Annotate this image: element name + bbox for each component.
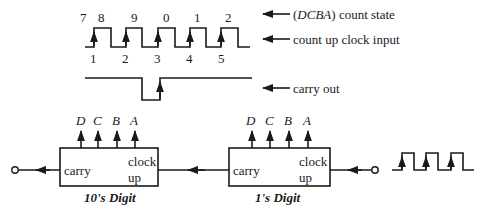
tens-digit-caption: 10's Digit (84, 190, 136, 205)
pulse-number: 4 (186, 51, 193, 66)
output-label-c: C (93, 113, 102, 128)
pulse-number: 2 (122, 51, 129, 66)
state-label: 2 (225, 10, 232, 25)
output-label-d: D (75, 113, 86, 128)
carry-label: carry (64, 163, 91, 178)
legend: (DCBA) count state count up clock input … (263, 7, 400, 96)
pulse-number: 3 (154, 51, 161, 66)
output-label-b: B (284, 113, 292, 128)
legend-clock-input: count up clock input (293, 32, 400, 47)
tens-carry-output (12, 167, 60, 173)
legend-count-state: (DCBA) count state (293, 7, 395, 22)
state-label: 7 (80, 10, 87, 25)
up-label: up (128, 170, 141, 185)
pulse-number: 5 (218, 51, 225, 66)
clock-input (330, 167, 378, 173)
ones-digit-counter: D C B A carry clock up 1's Digit (229, 113, 330, 205)
diagram-canvas: 7 8 9 0 1 2 1 2 3 4 5 (DCBA) count state… (0, 0, 481, 210)
state-label: 0 (163, 10, 170, 25)
output-terminal-icon (12, 167, 18, 173)
ones-digit-caption: 1's Digit (255, 190, 301, 205)
state-label: 1 (194, 10, 201, 25)
pulse-number: 1 (90, 51, 97, 66)
state-label: 8 (98, 10, 105, 25)
clock-waveform (85, 28, 250, 47)
bcd-counter-cascade-diagram: 7 8 9 0 1 2 1 2 3 4 5 (DCBA) count state… (0, 0, 481, 210)
clock-label: clock (299, 154, 328, 169)
input-terminal-icon (372, 167, 378, 173)
carry-label: carry (233, 163, 260, 178)
carry-out-waveform (85, 78, 252, 100)
output-label-b: B (112, 113, 120, 128)
output-label-c: C (265, 113, 274, 128)
output-label-a: A (302, 113, 311, 128)
tens-digit-counter: D C B A carry clock up 10's Digit (60, 113, 158, 205)
up-label: up (299, 170, 312, 185)
count-state-labels: 7 8 9 0 1 2 (80, 10, 232, 25)
input-clock-waveform (392, 153, 474, 170)
legend-carry-out: carry out (293, 81, 340, 96)
output-label-d: D (245, 113, 256, 128)
state-label: 9 (131, 10, 138, 25)
pulse-number-labels: 1 2 3 4 5 (90, 51, 225, 66)
clock-label: clock (128, 154, 157, 169)
output-label-a: A (129, 113, 138, 128)
